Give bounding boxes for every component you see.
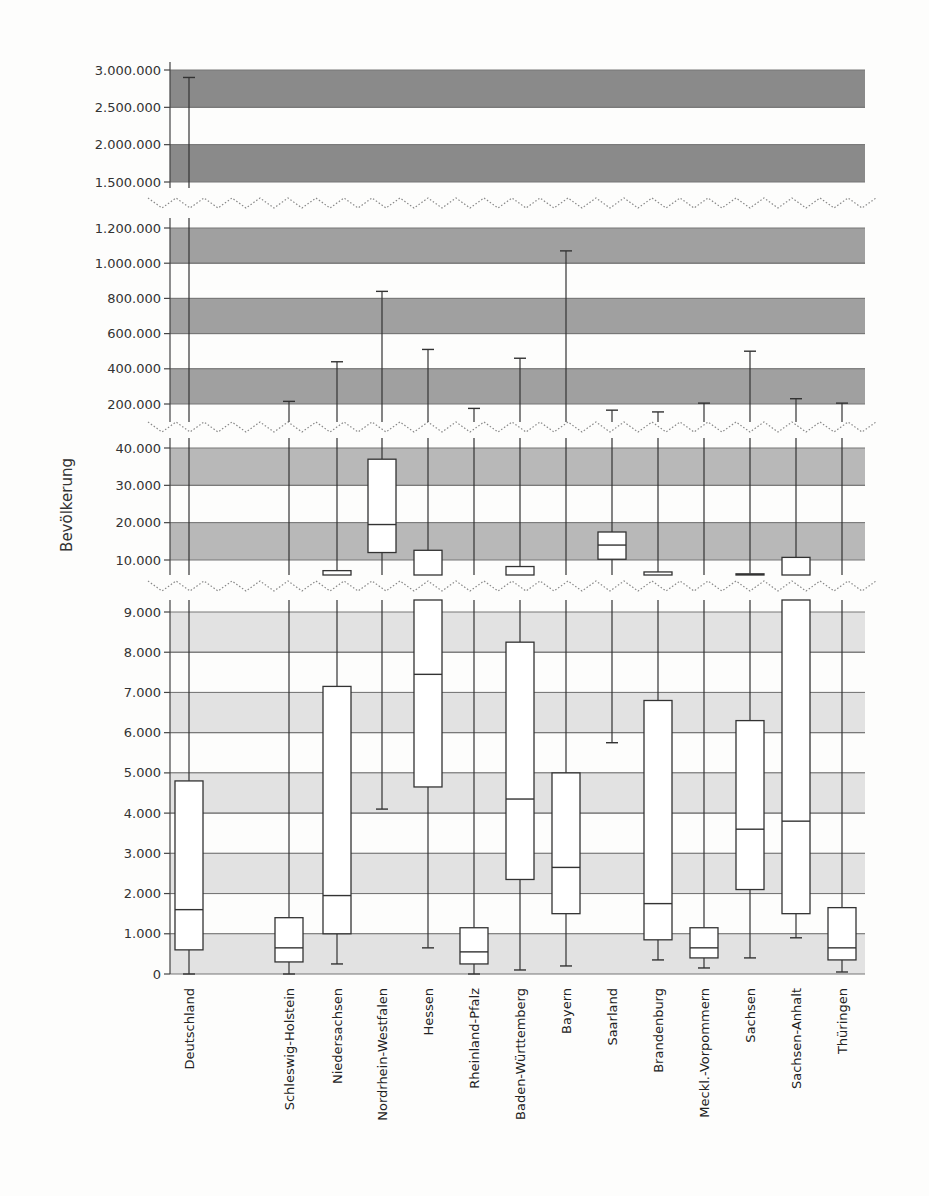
y-tick-label: 8.000	[124, 645, 161, 660]
x-tick-label: Brandenburg	[651, 988, 666, 1073]
y-tick-label: 4.000	[124, 806, 161, 821]
x-tick-label: Bayern	[559, 988, 574, 1034]
y-tick-label: 2.000.000	[95, 137, 161, 152]
y-tick-label: 1.200.000	[95, 221, 161, 236]
box-iqr	[828, 908, 856, 960]
box-iqr	[506, 567, 534, 575]
x-tick-label: Meckl.-Vorpommern	[697, 988, 712, 1118]
box-iqr	[782, 557, 810, 575]
box-iqr	[782, 600, 810, 914]
y-axis-title: Bevölkerung	[58, 458, 76, 552]
box-iqr	[368, 459, 396, 552]
y-tick-label: 400.000	[107, 361, 161, 376]
x-tick-label: Schleswig-Holstein	[282, 988, 297, 1110]
x-tick-label: Saarland	[605, 988, 620, 1046]
y-tick-label: 200.000	[107, 397, 161, 412]
box-iqr	[323, 686, 351, 933]
grid-band	[170, 70, 865, 107]
y-tick-label: 1.000.000	[95, 256, 161, 271]
y-tick-label: 5.000	[124, 765, 161, 780]
box-iqr	[175, 781, 203, 950]
y-tick-label: 20.000	[116, 515, 162, 530]
box-iqr	[644, 572, 672, 575]
box-iqr	[414, 550, 442, 575]
boxplot-chart: 3.000.0002.500.0002.000.0001.500.0001.20…	[0, 0, 929, 1196]
x-tick-label: Nordrhein-Westfalen	[375, 988, 390, 1121]
y-tick-label: 10.000	[116, 553, 162, 568]
box-iqr	[460, 928, 488, 964]
y-tick-label: 2.500.000	[95, 100, 161, 115]
x-tick-label: Baden-Württemberg	[513, 988, 528, 1120]
x-axis-labels: DeutschlandSchleswig-HolsteinNiedersachs…	[182, 988, 850, 1121]
x-tick-label: Rheinland-Pfalz	[467, 988, 482, 1089]
grid-band	[170, 448, 865, 485]
y-tick-label: 40.000	[116, 441, 162, 456]
y-axis: 3.000.0002.500.0002.000.0001.500.0001.20…	[95, 62, 170, 982]
y-tick-label: 1.000	[124, 926, 161, 941]
y-tick-label: 3.000	[124, 846, 161, 861]
x-tick-label: Deutschland	[182, 988, 197, 1070]
y-tick-label: 30.000	[116, 478, 162, 493]
box-iqr	[690, 928, 718, 958]
box-iqr	[275, 918, 303, 962]
grid-band	[170, 298, 865, 333]
grid-band	[170, 145, 865, 182]
x-tick-label: Sachsen	[743, 988, 758, 1043]
x-tick-label: Sachsen-Anhalt	[789, 988, 804, 1089]
y-tick-label: 3.000.000	[95, 63, 161, 78]
y-tick-label: 1.500.000	[95, 175, 161, 190]
y-tick-label: 2.000	[124, 886, 161, 901]
box-iqr	[414, 600, 442, 787]
x-tick-label: Thüringen	[835, 988, 850, 1055]
grid-band	[170, 523, 865, 560]
box-iqr	[323, 571, 351, 575]
box-iqr	[552, 773, 580, 914]
axis-break-marker	[148, 198, 876, 208]
box-iqr	[736, 721, 764, 890]
y-tick-label: 7.000	[124, 685, 161, 700]
y-tick-label: 800.000	[107, 291, 161, 306]
box-iqr	[736, 574, 764, 575]
x-tick-label: Niedersachsen	[330, 988, 345, 1084]
box-iqr	[506, 642, 534, 879]
y-tick-label: 6.000	[124, 725, 161, 740]
y-tick-label: 9.000	[124, 605, 161, 620]
y-tick-label: 0	[153, 967, 161, 982]
grid-band	[170, 369, 865, 404]
grid-band	[170, 228, 865, 263]
x-tick-label: Hessen	[421, 988, 436, 1036]
axis-break-marker	[148, 422, 876, 432]
y-tick-label: 600.000	[107, 326, 161, 341]
grid-band	[170, 934, 865, 974]
axis-break-marker	[148, 581, 876, 591]
